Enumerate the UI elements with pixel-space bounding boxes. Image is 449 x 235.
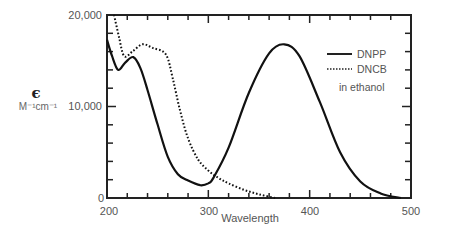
legend: DNPP DNCB in ethanol [327, 48, 387, 93]
y-tick-0: 0 [98, 192, 104, 204]
uv-vis-spectrum-chart: 20,000 10,000 0 ϵ M⁻¹cm⁻¹ 200 300 400 50… [0, 0, 449, 235]
x-tick-400: 400 [301, 205, 319, 217]
x-tick-200: 200 [100, 205, 118, 217]
x-tick-500: 500 [402, 205, 420, 217]
y-axis-unit: M⁻¹cm⁻¹ [19, 101, 58, 112]
data-curves [107, 15, 401, 198]
y-tick-10000: 10,000 [68, 100, 102, 112]
y-tick-20000: 20,000 [68, 9, 102, 21]
legend-label-dnpp: DNPP [357, 48, 386, 60]
x-tick-300: 300 [200, 205, 218, 217]
curve-dncb [114, 15, 275, 198]
y-axis-symbol: ϵ [31, 84, 40, 102]
legend-label-dncb: DNCB [357, 63, 387, 75]
annotation-solvent: in ethanol [339, 81, 385, 93]
x-axis-title: Wavelength [221, 212, 279, 224]
